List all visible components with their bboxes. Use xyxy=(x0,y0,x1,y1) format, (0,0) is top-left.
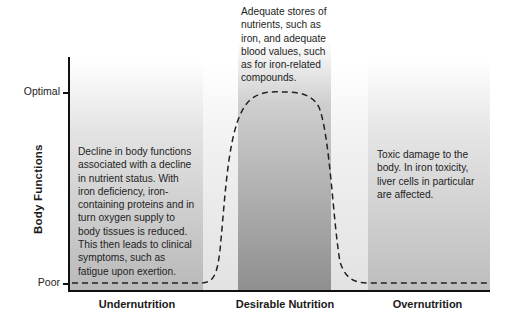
overnutrition-description: Toxic damage to the body. In iron toxici… xyxy=(377,148,487,201)
undernutrition-description: Decline in body functions associated wit… xyxy=(78,145,198,278)
x-label-undernutrition: Undernutrition xyxy=(72,298,202,310)
x-axis xyxy=(68,290,490,292)
x-label-overnutrition: Overnutrition xyxy=(365,298,490,310)
y-axis-title: Body Functions xyxy=(32,144,44,234)
x-label-desirable-nutrition: Desirable Nutrition xyxy=(210,298,360,310)
tick-optimal xyxy=(63,92,69,94)
tick-label-optimal: Optimal xyxy=(0,85,60,97)
desirable-nutrition-description: Adequate stores of nutrients, such as ir… xyxy=(241,5,337,85)
tick-poor xyxy=(63,283,69,285)
tick-label-poor: Poor xyxy=(0,276,60,288)
